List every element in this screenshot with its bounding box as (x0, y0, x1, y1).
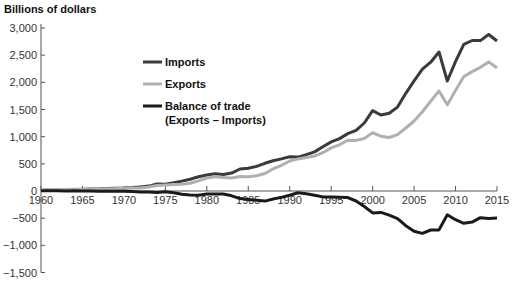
series-line-0 (41, 35, 497, 190)
y-tick-label: 500 (19, 158, 37, 170)
y-tick-label: −1,500 (3, 267, 37, 279)
series-line-1 (41, 62, 497, 190)
x-tick-label: 2015 (485, 194, 509, 206)
trade-chart: Billions of dollars 3,0002,5002,0001,500… (0, 0, 518, 281)
legend: Imports Exports Balance of trade (Export… (143, 56, 266, 126)
series-line-2 (41, 191, 497, 234)
y-tick-label: 1,000 (9, 131, 37, 143)
x-tick-label: 2010 (443, 194, 467, 206)
y-tick-label: −500 (12, 212, 37, 224)
x-tick-label: 1970 (112, 194, 136, 206)
x-tick-label: 1965 (70, 194, 94, 206)
x-tick-label: 2005 (402, 194, 426, 206)
x-tick-label: 1960 (29, 194, 53, 206)
x-tick-label: 2000 (360, 194, 384, 206)
x-tick-label: 1975 (153, 194, 177, 206)
y-tick-label: −1,000 (3, 239, 37, 251)
legend-exports: Exports (165, 78, 206, 90)
y-tick-label: 3,000 (9, 22, 37, 34)
y-axis: 3,0002,5002,0001,5001,0005000−500−1,000−… (3, 22, 45, 279)
legend-imports: Imports (165, 56, 205, 68)
legend-balance-sub: (Exports – Imports) (165, 114, 266, 126)
y-tick-label: 2,500 (9, 49, 37, 61)
series-lines (41, 35, 497, 234)
y-axis-label: Billions of dollars (4, 3, 96, 15)
y-tick-label: 1,500 (9, 104, 37, 116)
legend-balance: Balance of trade (165, 100, 251, 112)
y-tick-label: 2,000 (9, 76, 37, 88)
